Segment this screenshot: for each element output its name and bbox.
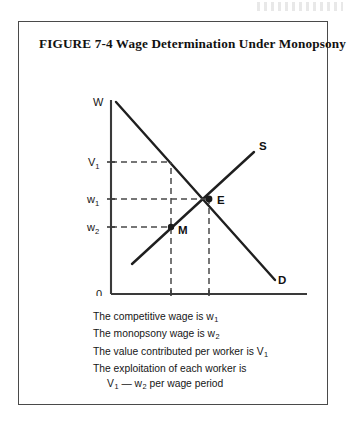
point-e-marker — [206, 196, 213, 203]
y-tick-label-w2: w2 — [86, 221, 99, 236]
figure-box: FIGURE 7-4 Wage Determination Under Mono… — [18, 21, 328, 405]
point-m-marker — [168, 224, 174, 230]
caption-line-3-sub: 1 — [264, 350, 269, 359]
point-m-label: M — [178, 224, 188, 236]
caption-line-1-sub: 1 — [214, 315, 219, 324]
caption-line-4-text: The exploitation of each worker is — [93, 363, 246, 374]
caption-v-sub: 1 — [114, 382, 119, 391]
supply-curve-label: S — [259, 140, 267, 152]
supply-curve — [132, 152, 254, 264]
caption-line-5: V1 — w2 per wage period — [93, 377, 323, 394]
caption-v-base: V — [107, 378, 114, 389]
caption-line-1-text: The competitive wage is w — [93, 311, 214, 322]
caption-tail-text: per wage period — [149, 378, 223, 389]
point-e-label: E — [217, 194, 225, 206]
caption-w-base: w — [135, 378, 142, 389]
y-tick-label-v1: V1 — [88, 156, 100, 171]
caption-minus-sign: — — [121, 378, 131, 389]
scan-artifact — [257, 2, 343, 11]
caption-line-3-text: The value contributed per worker is V — [93, 346, 264, 357]
caption-line-2-text: The monopsony wage is w — [93, 328, 215, 339]
demand-curve-label: D — [278, 274, 286, 286]
chart-svg: W Q 0 V1 w1 w2 q2 q1 S D E M — [19, 64, 329, 296]
caption-w-sub: 2 — [142, 382, 147, 391]
figure-title: FIGURE 7-4 Wage Determination Under Mono… — [39, 36, 346, 52]
y-tick-label-w1: w1 — [86, 193, 99, 208]
caption-line-3: The value contributed per worker is V1 — [93, 345, 323, 362]
chart-plot-area: W Q 0 V1 w1 w2 q2 q1 S D E M — [19, 64, 329, 296]
caption-line-4: The exploitation of each worker is — [93, 362, 323, 376]
y-axis-label: W — [93, 96, 104, 108]
caption-line-1: The competitive wage is w1 — [93, 310, 323, 327]
origin-label: 0 — [96, 288, 102, 296]
demand-curve — [116, 102, 275, 280]
caption-line-2: The monopsony wage is w2 — [93, 327, 323, 344]
figure-caption: The competitive wage is w1 The monopsony… — [93, 310, 323, 394]
caption-line-2-sub: 2 — [215, 332, 220, 341]
